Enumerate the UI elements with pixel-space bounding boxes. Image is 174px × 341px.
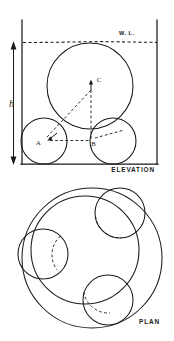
figure-root: A B C W. L. h ELEVATION: [0, 0, 174, 341]
elevation-view: A B C W. L. h ELEVATION: [9, 20, 158, 173]
plan-hidden-arc-left: [52, 236, 60, 270]
c-marker-arrowhead: [89, 80, 93, 85]
water-line-label: W. L.: [119, 30, 135, 36]
plan-inner-large-circle: [31, 196, 139, 304]
plan-small-circle-left: [18, 229, 68, 279]
elevation-large-circle: [47, 43, 133, 129]
technical-drawing-svg: A B C W. L. h ELEVATION: [0, 0, 174, 341]
height-arrow-bottom: [11, 157, 17, 165]
point-label-a: A: [36, 139, 41, 146]
plan-view-label: PLAN: [139, 318, 160, 325]
point-label-b: B: [91, 140, 96, 147]
point-label-c: C: [97, 76, 102, 83]
water-line: [23, 42, 157, 43]
plan-small-circle-bottom: [83, 275, 133, 325]
height-arrow-top: [11, 41, 17, 49]
construction-line-b-to-tangent: [95, 130, 124, 138]
plan-view: PLAN: [18, 188, 162, 328]
elevation-small-circle-right: [90, 118, 136, 164]
height-dimension-label: h: [9, 98, 14, 109]
construction-line-a-to-c: [47, 90, 91, 137]
elevation-view-label: ELEVATION: [111, 166, 155, 173]
elevation-small-circle-left: [21, 118, 67, 164]
